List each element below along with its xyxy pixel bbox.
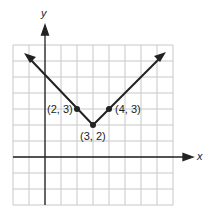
point-label-3-2: (3, 2): [80, 130, 106, 142]
point-label-2-3: (2, 3): [47, 103, 73, 115]
point-3-2: [90, 122, 96, 128]
graph-figure: y x (2, 3) (3, 2) (4, 3): [0, 0, 211, 217]
y-axis-arrow-icon: [42, 25, 49, 35]
x-axis-arrow-icon: [183, 154, 193, 161]
y-axis-label: y: [41, 7, 47, 19]
point-2-3: [74, 106, 80, 112]
point-label-4-3: (4, 3): [115, 103, 141, 115]
coordinate-plane: [0, 0, 211, 217]
x-axis-label: x: [197, 150, 203, 162]
point-4-3: [106, 106, 112, 112]
